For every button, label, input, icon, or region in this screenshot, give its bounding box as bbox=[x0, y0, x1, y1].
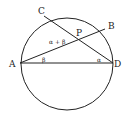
label-p: P bbox=[76, 28, 82, 38]
label-b: B bbox=[108, 21, 115, 31]
chord-ab bbox=[20, 29, 105, 63]
label-d: D bbox=[114, 59, 121, 69]
angle-adc-label: α bbox=[97, 56, 101, 63]
label-a: A bbox=[8, 59, 16, 69]
label-c: C bbox=[38, 6, 45, 16]
angle-bad-label: β bbox=[42, 56, 46, 64]
circle-diagram: C B A D P α + β β α bbox=[0, 0, 127, 113]
angle-apb-label: α + β bbox=[49, 38, 66, 46]
